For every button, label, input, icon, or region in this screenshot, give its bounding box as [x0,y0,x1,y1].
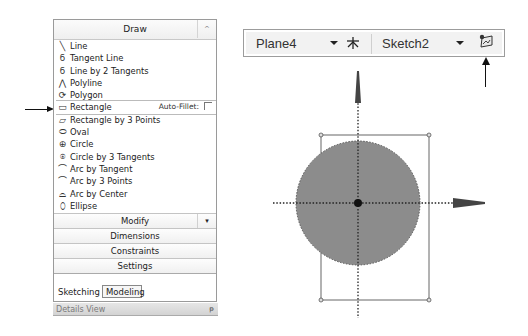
details-view-title: Details View [56,305,105,314]
tool-circle[interactable]: ⊕Circle [56,138,216,150]
tool-circle-by-3-tangents[interactable]: ⍟Circle by 3 Tangents [56,151,216,163]
tool-ellipse[interactable]: ⬯Ellipse [56,200,216,212]
new-plane-icon[interactable] [346,36,360,50]
plane-sketch-toolbar: Plane4 Sketch2 [243,29,505,57]
arc-center-icon: ⌓ [57,189,68,200]
arc-3-points-icon: ⌒ [57,176,68,187]
tab-sketching[interactable]: Sketching [55,286,101,299]
tool-label: Circle [70,139,94,149]
tool-polyline[interactable]: ⋀Polyline [56,77,216,89]
plane-dropdown-icon[interactable] [330,41,338,45]
polyline-icon: ⋀ [57,78,68,89]
new-sketch-icon[interactable] [478,33,494,49]
modify-group-button[interactable]: Modify ▾ [54,213,216,228]
constraints-label: Constraints [111,246,160,256]
y-axis-arrow-icon [355,71,361,103]
tool-rectangle-by-3-points[interactable]: ▱Rectangle by 3 Points [56,114,216,126]
dropdown-icon[interactable]: ▾ [197,214,216,228]
collapse-icon[interactable]: ^ [197,20,216,38]
circle-3-tangents-icon: ⍟ [57,152,68,163]
dimensions-group-button[interactable]: Dimensions [54,228,216,243]
pin-icon[interactable]: ᵽ [209,303,214,316]
tool-label: Polyline [70,78,102,88]
circle-icon: ⊕ [57,139,68,150]
settings-group-button[interactable]: Settings [54,258,216,274]
auto-fillet-option[interactable]: Auto-Fillet: [159,101,212,113]
draw-group-header[interactable]: Draw ^ [54,20,216,40]
draw-tool-list[interactable]: ╲Line ϭTangent Line ϭLine by 2 Tangents … [56,40,216,212]
tool-polygon[interactable]: ⟳Polygon [56,89,216,101]
tool-rectangle[interactable]: ▭RectangleAuto-Fillet: [56,101,216,113]
plane-select[interactable]: Plane4 [256,34,336,54]
oval-icon: ⬭ [57,127,68,138]
tool-label: Line by 2 Tangents [70,66,149,76]
toolbar-separator [371,34,372,54]
origin-point[interactable] [354,199,362,207]
corner-point[interactable] [319,298,323,302]
tool-line[interactable]: ╲Line [56,40,216,52]
tool-label: Arc by 3 Points [70,176,132,186]
modify-label: Modify [121,216,149,226]
auto-fillet-label: Auto-Fillet: [159,102,199,111]
tool-label: Circle by 3 Tangents [70,152,155,162]
rectangle-icon: ▭ [57,102,68,113]
ellipse-icon: ⬯ [57,201,68,212]
tab-modeling[interactable]: Modeling [102,285,142,298]
tool-line-by-2-tangents[interactable]: ϭLine by 2 Tangents [56,65,216,77]
tool-label: Arc by Tangent [70,164,132,174]
line-icon: ╲ [57,41,68,52]
tool-label: Tangent Line [70,53,123,63]
arc-tangent-icon: ⌒ [57,164,68,175]
sketching-toolbox: Draw ^ ╲Line ϭTangent Line ϭLine by 2 Ta… [53,19,217,302]
auto-fillet-checkbox[interactable] [204,102,212,110]
tool-label: Rectangle by 3 Points [70,115,160,125]
rectangle-3-points-icon: ▱ [57,115,68,126]
annotation-arrow-rectangle [25,109,49,110]
tool-label: Line [70,41,87,51]
polygon-icon: ⟳ [57,90,68,101]
sketch-value: Sketch2 [382,36,429,51]
corner-point[interactable] [427,133,431,137]
sketch-canvas[interactable] [240,60,528,336]
corner-point[interactable] [319,133,323,137]
tool-tangent-line[interactable]: ϭTangent Line [56,52,216,64]
tool-arc-by-3-points[interactable]: ⌒Arc by 3 Points [56,175,216,187]
tool-oval[interactable]: ⬭Oval [56,126,216,138]
tool-label: Polygon [70,90,103,100]
mode-tabs: Sketching Modeling [54,286,216,302]
tool-arc-by-tangent[interactable]: ⌒Arc by Tangent [56,163,216,175]
corner-point[interactable] [427,298,431,302]
constraints-group-button[interactable]: Constraints [54,243,216,258]
tool-label: Ellipse [70,201,97,211]
tangent-line-icon: ϭ [57,53,68,64]
tool-label: Oval [70,127,89,137]
tool-arc-by-center[interactable]: ⌓Arc by Center [56,188,216,200]
tool-label: Arc by Center [70,189,127,199]
sketch-dropdown-icon[interactable] [456,41,464,45]
sketch-select[interactable]: Sketch2 [382,34,462,54]
x-axis-arrow-icon [453,198,485,208]
settings-label: Settings [118,261,153,271]
details-view-header[interactable]: Details View ᵽ [53,303,218,316]
dimensions-label: Dimensions [110,231,160,241]
tool-label: Rectangle [70,102,112,112]
draw-title: Draw [123,24,147,34]
line-by-2-tangents-icon: ϭ [57,66,68,77]
plane-value: Plane4 [256,36,296,51]
